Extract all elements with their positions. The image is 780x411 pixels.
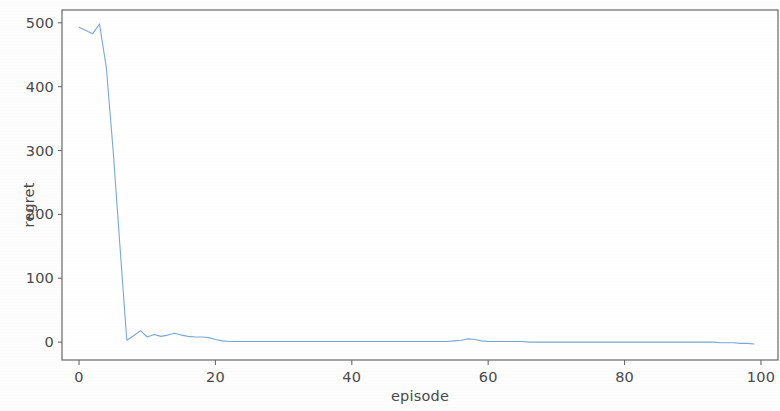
x-axis-title: episode (391, 388, 449, 404)
x-tick-label: 60 (479, 369, 498, 385)
x-tick-label: 100 (747, 369, 775, 385)
y-tick-marks (58, 23, 62, 342)
x-tick-label: 80 (615, 369, 634, 385)
x-tick-label: 20 (206, 369, 225, 385)
x-tick-label: 0 (74, 369, 83, 385)
regret-line-chart (0, 0, 780, 411)
y-tick-label: 400 (12, 79, 54, 95)
x-tick-marks (79, 360, 761, 365)
y-tick-label: 0 (12, 334, 54, 350)
y-tick-label: 500 (12, 15, 54, 31)
axes-frame (62, 10, 778, 360)
x-tick-label: 40 (342, 369, 361, 385)
y-tick-label: 300 (12, 143, 54, 159)
y-tick-label: 100 (12, 270, 54, 286)
figure-canvas: 0100200300400500 020406080100 episode re… (0, 0, 780, 411)
plot-frame (62, 10, 778, 360)
y-axis-title: regret (21, 182, 37, 227)
